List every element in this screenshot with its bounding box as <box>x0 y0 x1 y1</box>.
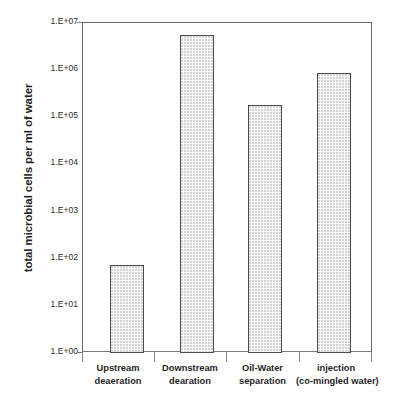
x-label-downstream-dearation: Downstream dearation <box>154 362 226 387</box>
x-axis-separator <box>226 352 227 362</box>
x-label-oil-water-separation: Oil-Water separation <box>226 362 299 387</box>
bar-upstream-deaeration <box>110 265 144 353</box>
x-axis-separator <box>82 352 83 362</box>
x-label-line2: deaeration <box>82 375 154 388</box>
x-label-injection-co-mingled: injection (co-mingled water) <box>296 362 376 387</box>
bar-injection-co-mingled <box>317 73 351 353</box>
x-axis-separator <box>154 352 155 362</box>
y-tick-label-1e7: 1.E+07 <box>20 17 78 26</box>
x-label-line1: Upstream <box>97 363 140 373</box>
x-label-line2: separation <box>226 375 299 388</box>
y-tick-label-1e2: 1.E+02 <box>20 253 78 262</box>
y-tick-label-1e0: 1.E+00 <box>20 347 78 356</box>
y-tick-label-1e3: 1.E+03 <box>20 206 78 215</box>
x-label-upstream-deaeration: Upstream deaeration <box>82 362 154 387</box>
y-tick-label-1e4: 1.E+04 <box>20 158 78 167</box>
x-label-line1: Downstream <box>162 363 218 373</box>
y-tick-label-1e6: 1.E+06 <box>20 64 78 73</box>
x-label-line1: Oil-Water <box>242 363 283 373</box>
x-label-line1: injection <box>317 363 355 373</box>
y-axis-title: total microbial cells per ml of water <box>22 48 42 308</box>
bar-chart: total microbial cells per ml of water 1.… <box>0 0 394 400</box>
bar-downstream-dearation <box>180 35 214 353</box>
y-tick-label-1e1: 1.E+01 <box>20 300 78 309</box>
x-axis-separator <box>299 352 300 362</box>
x-axis-separator <box>371 352 372 362</box>
x-label-line2: dearation <box>154 375 226 388</box>
x-label-line2: (co-mingled water) <box>296 375 376 388</box>
y-tick-label-1e5: 1.E+05 <box>20 111 78 120</box>
bar-oil-water-separation <box>248 105 282 353</box>
